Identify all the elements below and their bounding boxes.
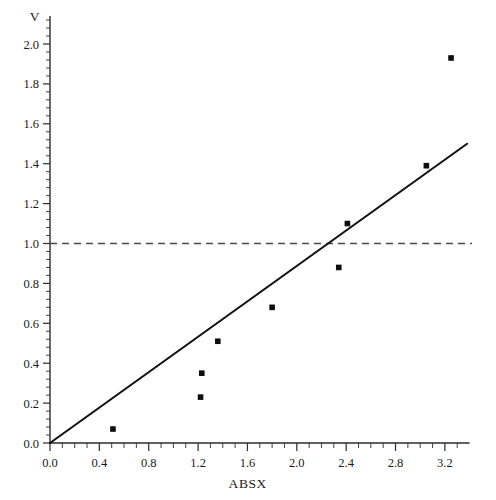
data-point bbox=[424, 163, 430, 169]
y-tick-label: 0.4 bbox=[23, 357, 39, 371]
data-point bbox=[345, 221, 351, 227]
x-tick-label: 2.0 bbox=[289, 456, 305, 470]
data-point bbox=[448, 55, 454, 61]
y-tick-label: 0.8 bbox=[23, 277, 39, 291]
y-axis-tick-labels: 0.00.20.40.60.81.01.21.41.61.82.0 bbox=[23, 38, 39, 451]
x-axis-title: ABSX bbox=[229, 476, 267, 491]
x-tick-label: 1.2 bbox=[190, 456, 206, 470]
x-tick-label: 0.8 bbox=[141, 456, 157, 470]
y-tick-label: 1.6 bbox=[23, 117, 39, 131]
y-tick-label: 0.6 bbox=[23, 317, 39, 331]
data-point bbox=[198, 394, 204, 400]
x-tick-label: 1.6 bbox=[240, 456, 256, 470]
plot-canvas: 0.00.20.40.60.81.01.21.41.61.82.0 0.00.4… bbox=[0, 0, 496, 500]
y-tick-label: 0.0 bbox=[23, 437, 39, 451]
x-axis-tick-labels: 0.00.40.81.21.62.02.42.83.2 bbox=[42, 456, 453, 470]
data-point bbox=[215, 338, 221, 344]
data-point bbox=[269, 305, 275, 311]
x-tick-label: 0.4 bbox=[92, 456, 108, 470]
y-tick-label: 1.4 bbox=[23, 157, 39, 171]
scatter-plot-figure: 0.00.20.40.60.81.01.21.41.61.82.0 0.00.4… bbox=[0, 0, 496, 500]
y-tick-label: 0.2 bbox=[23, 397, 39, 411]
y-tick-label: 1.8 bbox=[23, 77, 39, 91]
data-point bbox=[336, 265, 342, 271]
y-axis-major-ticks bbox=[43, 44, 50, 443]
data-point bbox=[110, 426, 116, 432]
x-tick-label: 0.0 bbox=[42, 456, 58, 470]
x-tick-label: 2.8 bbox=[388, 456, 404, 470]
x-axis-major-ticks bbox=[50, 443, 445, 451]
data-point bbox=[199, 370, 205, 376]
x-tick-label: 2.4 bbox=[338, 456, 354, 470]
y-axis-title: V bbox=[30, 9, 40, 24]
regression-fit-line bbox=[50, 144, 467, 443]
y-tick-label: 1.0 bbox=[23, 237, 39, 251]
y-tick-label: 1.2 bbox=[23, 197, 39, 211]
x-tick-label: 3.2 bbox=[437, 456, 453, 470]
y-tick-label: 2.0 bbox=[23, 38, 39, 52]
x-axis-minor-ticks bbox=[62, 443, 457, 448]
